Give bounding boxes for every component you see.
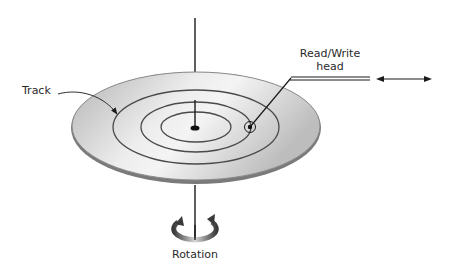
double-headed-arrow-icon <box>376 76 432 82</box>
head-label: head <box>290 60 370 73</box>
read-write-label: Read/Write <box>290 47 370 60</box>
rotation-label: Rotation <box>165 248 225 261</box>
disk-diagram: Track Read/Write head Rotation <box>0 0 456 272</box>
spindle-hub <box>191 125 200 130</box>
track-label: Track <box>22 84 51 97</box>
